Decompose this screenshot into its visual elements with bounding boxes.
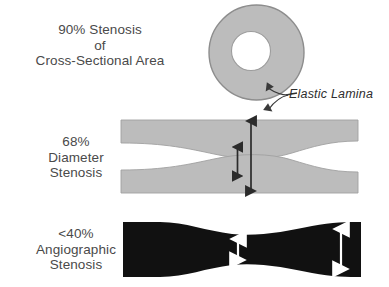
diameter-label-line2: Diameter — [12, 150, 140, 166]
cross-section-label-line3: Cross-Sectional Area — [0, 53, 200, 69]
diameter-label-line1: 68% — [12, 134, 140, 150]
lumen-opening — [232, 32, 271, 71]
upper-vessel-wall — [121, 120, 358, 158]
lower-vessel-wall — [121, 155, 358, 193]
cross-section-label-line2: of — [0, 38, 200, 54]
cross-section-label-line1: 90% Stenosis — [0, 22, 200, 38]
angiographic-lumen-silhouette — [123, 222, 361, 277]
longitudinal-figure — [121, 120, 358, 193]
diameter-label-line3: Stenosis — [12, 165, 140, 181]
cross-section-label: 90% Stenosis of Cross-Sectional Area — [0, 22, 200, 69]
stenosis-diagram: 90% Stenosis of Cross-Sectional Area 68%… — [0, 0, 389, 287]
angio-label-line3: Stenosis — [2, 257, 150, 273]
angiographic-figure — [123, 222, 361, 277]
cross-section-figure — [209, 5, 304, 100]
angio-label-line2: Angiographic — [2, 242, 150, 258]
angiographic-stenosis-label: <40% Angiographic Stenosis — [2, 226, 150, 273]
angio-label-line1: <40% — [2, 226, 150, 242]
diameter-stenosis-label: 68% Diameter Stenosis — [12, 134, 140, 181]
elastic-lamina-label: Elastic Lamina — [289, 87, 373, 101]
